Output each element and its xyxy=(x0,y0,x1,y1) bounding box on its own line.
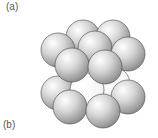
sphere-group xyxy=(41,20,145,128)
sphere-bottom xyxy=(53,90,87,124)
sphere-top xyxy=(55,48,89,82)
sphere-top xyxy=(88,50,122,84)
sphere-bottom xyxy=(86,94,120,128)
sphere-packing-diagram xyxy=(0,0,158,138)
